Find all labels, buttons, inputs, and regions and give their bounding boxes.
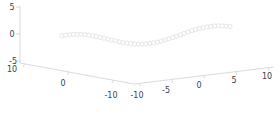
z-tick-label: 0: [9, 30, 14, 39]
y-tick-label: 0: [196, 81, 201, 90]
x-tick-label: 0: [60, 79, 65, 88]
3d-plot-canvas: 5 0 -5 10 0 -10 -10 -5 0 5 10: [0, 0, 280, 140]
y-tick-label: -10: [130, 91, 143, 100]
y-tick-label: 5: [231, 76, 236, 85]
z-tick-label: 5: [9, 3, 14, 12]
data-point: [197, 26, 201, 30]
x-tick-label: -10: [104, 91, 117, 100]
3d-plot-figure: 5 0 -5 10 0 -10 -10 -5 0 5 10: [0, 0, 280, 140]
x-tick-label: 10: [7, 65, 17, 74]
x-axis-ticks: [23, 64, 113, 83]
data-point: [87, 33, 91, 37]
x-axis-tick-labels: 10 0 -10: [7, 65, 118, 100]
x-axis-line: [20, 63, 134, 84]
z-axis-tick-labels: 5 0 -5: [9, 3, 17, 66]
y-tick-label: -5: [162, 86, 170, 95]
z-axis-ticks: [16, 7, 20, 61]
y-tick-label: 10: [262, 72, 272, 81]
data-series-wave: [60, 24, 232, 47]
y-axis-ticks: [140, 68, 269, 87]
data-point: [228, 24, 232, 28]
